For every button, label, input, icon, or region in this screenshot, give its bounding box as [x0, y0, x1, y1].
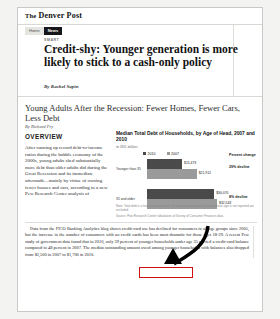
bar-value-younger-2007: $21,912	[197, 171, 211, 175]
bar-fill-younger-2010	[147, 159, 182, 169]
body-column: Data from the FICO Banking Analytics blo…	[25, 226, 254, 258]
legend-swatch-2010	[143, 152, 146, 155]
bar-value-older-2010: $30,070	[214, 191, 228, 195]
masthead-name: Denver Post	[38, 11, 82, 20]
overview-heading: OVERVIEW	[25, 133, 63, 140]
bar-group-younger: Younger than 35 $15,473 $21,912 29% decl…	[116, 159, 257, 183]
article-byline: By Rachel Sapin	[44, 84, 78, 89]
legend-item-2007: 2007	[167, 152, 180, 156]
report-title: Young Adults After the Recession: Fewer …	[25, 103, 257, 123]
chart-notes: Note: Total debt is a household measure.…	[116, 204, 257, 220]
header-rule	[18, 96, 262, 97]
percent-change-header: Percent change	[229, 153, 257, 157]
article-headline: Credit-shy: Younger generation is more l…	[44, 43, 244, 69]
percent-change-older: 8% decline	[229, 195, 257, 199]
breadcrumb-item-news[interactable]: News	[44, 27, 62, 35]
category-label-older: 35 and older	[116, 197, 145, 201]
masthead-the: The	[25, 12, 36, 19]
body-paragraph: Data from the FICO Banking Analytics blo…	[25, 226, 249, 258]
legend-label-2007: 2007	[171, 152, 179, 156]
article-body: Data from the FICO Banking Analytics blo…	[25, 222, 257, 261]
legend-item-2010: 2010	[143, 152, 156, 156]
bar-fill-older-2010	[147, 189, 214, 199]
page-background: The Denver Post Home News SMART Credit-s…	[0, 0, 280, 319]
site-logo[interactable]: The Denver Post	[25, 11, 82, 20]
bar-younger-2007: $21,912	[147, 169, 217, 179]
bar-fill-younger-2007	[147, 169, 197, 179]
bar-older-2010: $30,070	[147, 189, 217, 199]
breadcrumb: Home News	[25, 27, 62, 35]
bar-younger-2010: $15,473	[147, 159, 217, 169]
report-header: Young Adults After the Recession: Fewer …	[25, 103, 257, 129]
site-masthead: The Denver Post	[18, 8, 262, 25]
chart-source-line: Source: Pew Research Center tabulations …	[116, 214, 257, 218]
category-label-younger: Younger than 35	[116, 167, 145, 171]
chart-subtitle: in 2011 dollars	[116, 145, 257, 149]
chart-note-line: Note: Total debt is a household measure.…	[116, 204, 257, 212]
report-author: By Richard Fry	[25, 124, 257, 129]
chart-title: Median Total Debt of Households, by Age …	[116, 131, 257, 143]
breadcrumb-item-home[interactable]: Home	[25, 27, 44, 35]
bar-value-younger-2010: $15,473	[182, 161, 196, 165]
legend-swatch-2007	[167, 152, 170, 155]
overview-text: After running up record debt-to-income r…	[25, 145, 109, 198]
bars-younger: $15,473 $21,912	[147, 159, 217, 183]
legend-label-2010: 2010	[148, 152, 156, 156]
annotation-highlight-box	[139, 267, 193, 278]
article-kicker: SMART	[44, 38, 59, 42]
percent-change-younger: 29% decline	[229, 165, 257, 169]
